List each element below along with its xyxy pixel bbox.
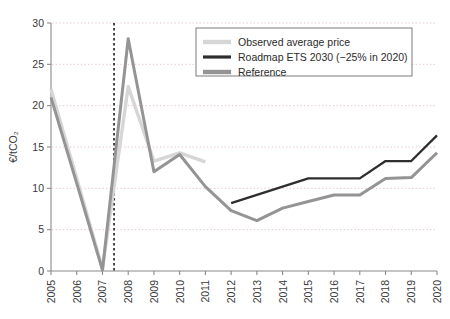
line-chart: 051015202530 200520062007200820092010201… <box>0 0 450 319</box>
x-tick-label-2010: 2010 <box>174 280 186 304</box>
x-tick-label-2016: 2016 <box>328 280 340 304</box>
y-tick-label-20: 20 <box>32 99 44 111</box>
x-tick-label-2019: 2019 <box>405 280 417 304</box>
series-line-roadmap-ets-2030-25-in-2020 <box>231 135 437 203</box>
x-tick-label-2006: 2006 <box>71 280 83 304</box>
legend-label-0: Observed average price <box>238 36 350 48</box>
legend-label-1: Roadmap ETS 2030 (−25% in 2020) <box>238 51 408 63</box>
y-tick-label-0: 0 <box>38 265 44 277</box>
x-tick-label-2013: 2013 <box>251 280 263 304</box>
x-tick-label-2018: 2018 <box>379 280 391 304</box>
y-tick-labels: 051015202530 <box>32 17 44 277</box>
x-tick-labels: 2005200620072008200920102011201220132014… <box>45 280 443 304</box>
y-tick-label-25: 25 <box>32 58 44 70</box>
x-tick-label-2009: 2009 <box>148 280 160 304</box>
x-tick-label-2012: 2012 <box>225 280 237 304</box>
y-tick-label-30: 30 <box>32 17 44 29</box>
x-tick-label-2007: 2007 <box>96 280 108 304</box>
chart-legend: Observed average priceRoadmap ETS 2030 (… <box>196 28 412 78</box>
y-axis-title: €/tCO₂ <box>7 131 19 163</box>
x-tick-label-2011: 2011 <box>199 280 211 303</box>
legend-label-2: Reference <box>238 66 287 78</box>
x-tick-label-2020: 2020 <box>431 280 443 304</box>
x-tick-label-2005: 2005 <box>45 280 57 304</box>
y-tick-label-10: 10 <box>32 182 44 194</box>
y-tick-label-15: 15 <box>32 141 44 153</box>
x-tick-label-2014: 2014 <box>277 280 289 304</box>
chart-container: 051015202530 200520062007200820092010201… <box>0 0 450 319</box>
x-tick-label-2017: 2017 <box>354 280 366 304</box>
y-tick-label-5: 5 <box>38 223 44 235</box>
y-tick-marks <box>47 23 51 271</box>
x-tick-marks <box>51 271 437 275</box>
x-tick-label-2015: 2015 <box>302 280 314 304</box>
x-tick-label-2008: 2008 <box>122 280 134 304</box>
